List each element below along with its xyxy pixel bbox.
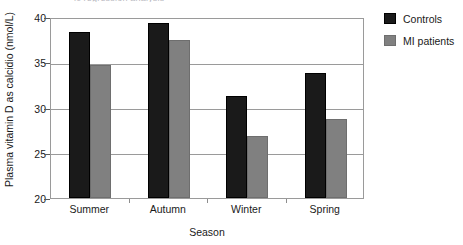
legend-swatch-icon [384,13,396,24]
y-axis-tick-label: 30 [16,104,46,114]
bar-winter-mi-patients [247,136,268,198]
bar-autumn-controls [148,23,169,198]
x-axis-tick-label-autumn: Autumn [123,203,213,215]
bar-spring-mi-patients [326,119,347,198]
legend-swatch-icon [384,35,396,46]
y-axis-tick-label: 40 [16,13,46,23]
cut-off-caption-remnant: ic regression analysis [74,0,214,2]
y-axis-title: Plasma vitamin D as calcidio (nmol/L) [2,0,16,199]
x-axis-tick-label-summer: Summer [44,203,134,215]
x-axis-tick-label-winter: Winter [201,203,291,215]
x-axis-title: Season [50,226,364,238]
x-axis-tick-mark [129,199,130,203]
y-axis-tick-label: 25 [16,149,46,159]
legend-item-controls: Controls [384,12,454,25]
bar-autumn-mi-patients [169,40,190,198]
x-axis-tick-label-spring: Spring [280,203,370,215]
y-axis-tick-label: 35 [16,58,46,68]
bar-summer-mi-patients [90,65,111,198]
bar-summer-controls [69,32,90,198]
bar-winter-controls [226,96,247,198]
x-axis-tick-mark [286,199,287,203]
legend-label: Controls [403,13,442,25]
y-axis-tick-label: 20 [16,194,46,204]
x-axis-tick-mark [207,199,208,203]
y-axis-tick-mark [44,199,50,200]
bar-spring-controls [305,73,326,198]
chart-legend: ControlsMI patients [384,12,454,56]
plot-area [50,18,364,199]
legend-label: MI patients [403,35,454,47]
legend-item-mi-patients: MI patients [384,34,454,47]
